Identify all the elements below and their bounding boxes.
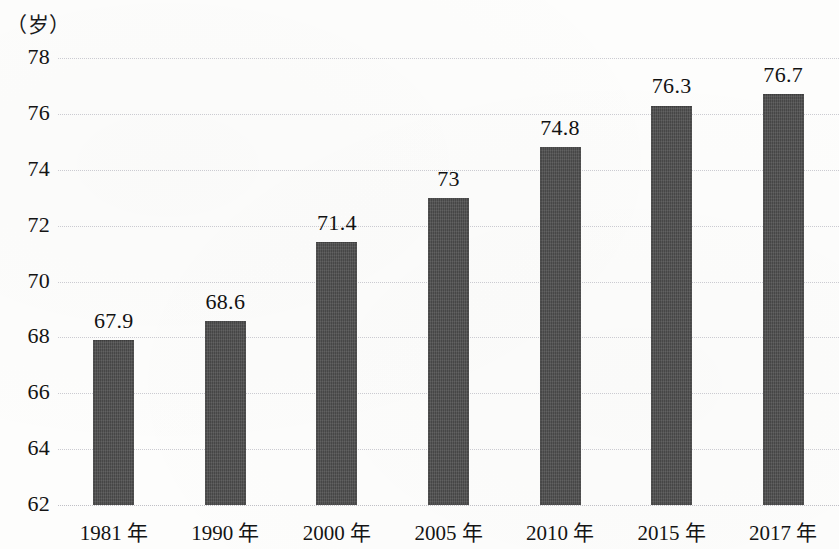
gridline-76 [58,114,839,115]
bar [763,94,804,505]
bar-value-label: 73 [399,166,499,192]
x-axis-category-label: 2017 年 [723,516,839,546]
x-axis-category-label: 2015 年 [612,516,732,546]
bar [316,242,357,505]
bar [540,147,581,505]
x-axis-category-label: 2000 年 [277,516,397,546]
y-tick-label-72: 72 [6,212,50,238]
gridline-78 [58,58,839,59]
bar-chart: （岁） 626466687072747678 67.91981 年68.6199… [0,0,839,549]
y-tick-label-70: 70 [6,268,50,294]
y-tick-label-62: 62 [6,491,50,517]
bar-value-label: 76.3 [622,73,722,99]
x-axis-category-label: 2010 年 [500,516,620,546]
bar-value-label: 76.7 [733,62,833,88]
gridline-62 [58,505,839,506]
bar [651,106,692,506]
y-tick-label-74: 74 [6,156,50,182]
x-axis-category-label: 1990 年 [165,516,285,546]
y-tick-label-64: 64 [6,436,50,462]
bar-value-label: 67.9 [64,308,164,334]
bar-value-label: 68.6 [175,289,275,315]
bar-value-label: 74.8 [510,115,610,141]
bar [93,340,134,505]
bar [205,321,246,505]
bar-value-label: 71.4 [287,210,387,236]
y-axis-unit-label: （岁） [6,8,71,38]
bar [428,198,469,505]
y-tick-label-76: 76 [6,100,50,126]
y-tick-label-66: 66 [6,380,50,406]
y-axis-tick-labels: 626466687072747678 [0,58,50,505]
plot-area [58,58,839,505]
y-tick-label-68: 68 [6,324,50,350]
y-tick-label-78: 78 [6,44,50,70]
x-axis-category-label: 2005 年 [389,516,509,546]
x-axis-category-label: 1981 年 [54,516,174,546]
